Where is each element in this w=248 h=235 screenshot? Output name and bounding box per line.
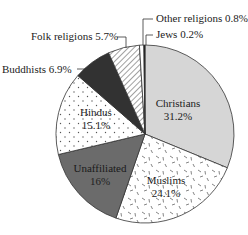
- label-other-religions: Other religions 0.8%: [156, 12, 248, 24]
- leader-other-religions: [143, 19, 153, 45]
- pie-slices: [56, 45, 234, 223]
- label-buddhists: Buddhists 6.9%: [2, 63, 72, 75]
- label-folk-religions: Folk religions 5.7%: [31, 30, 118, 42]
- leader-jews: [146, 35, 153, 45]
- label-muslims: Muslims24.1%: [147, 174, 186, 199]
- leader-folk-religions: [117, 37, 126, 48]
- religion-pie-chart: Christians31.2%Muslims24.1%Unaffiliated1…: [0, 0, 248, 235]
- label-hindus: Hindus15.1%: [80, 106, 112, 131]
- label-jews: Jews 0.2%: [156, 28, 203, 40]
